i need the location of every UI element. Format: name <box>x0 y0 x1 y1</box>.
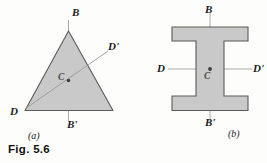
panel-a-label-b-top: B <box>72 7 79 18</box>
figure-caption: Fig. 5.6 <box>8 144 50 156</box>
panel-b-part-label: (b) <box>228 129 240 139</box>
panel-b-label-d-right: D' <box>253 63 264 74</box>
panel-b-label-centroid: C <box>204 72 210 82</box>
panel-b-label-b-top: B <box>205 4 212 15</box>
panel-b-label-b-bottom: B' <box>205 117 215 128</box>
panel-a-graphics <box>25 20 113 121</box>
figure-page: B B' D D' C (a) B B' D D' C (b) Fig. 5.6 <box>0 0 267 163</box>
triangle-shape <box>25 31 113 111</box>
panel-a-label-d-left: D <box>10 106 18 117</box>
panel-b-graphics <box>168 13 252 124</box>
panel-a-label-b-bottom: B' <box>67 119 77 130</box>
panel-b-label-d-left: D <box>157 63 165 74</box>
figure-graphics <box>0 0 267 163</box>
panel-a-part-label: (a) <box>28 131 40 141</box>
panel-a-label-centroid: C <box>58 73 64 83</box>
panel-a-label-d-right: D' <box>108 41 119 52</box>
panel-a-centroid-dot <box>67 79 71 83</box>
